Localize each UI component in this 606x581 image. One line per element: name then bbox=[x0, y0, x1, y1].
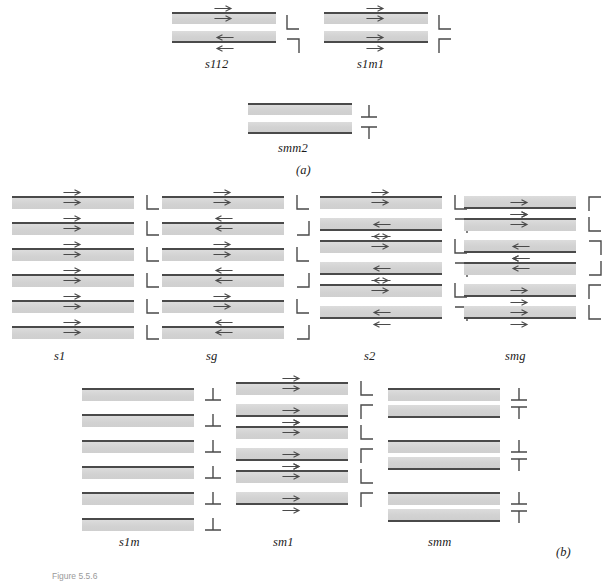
symmetry-symbol-corner-bl bbox=[294, 298, 314, 318]
symmetry-symbol-corner-bl bbox=[586, 304, 606, 324]
translation-arrow-left bbox=[213, 45, 235, 52]
symmetry-symbol-perp-down bbox=[204, 438, 224, 458]
symmetry-symbol-corner-bl bbox=[294, 246, 314, 266]
translation-arrow-right bbox=[509, 221, 531, 228]
symmetry-band bbox=[388, 440, 500, 453]
translation-arrow-left bbox=[370, 321, 392, 328]
translation-arrow-right bbox=[213, 5, 235, 12]
translation-arrow-right bbox=[281, 429, 303, 436]
translation-arrow-left bbox=[212, 225, 234, 232]
group-caption-smg: smg bbox=[505, 349, 526, 364]
translation-arrow-right bbox=[509, 299, 531, 306]
translation-arrow-right bbox=[370, 189, 392, 196]
group-caption-s1m: s1m bbox=[119, 535, 140, 550]
translation-arrow-left bbox=[509, 265, 531, 272]
group-caption-s112: s112 bbox=[205, 57, 229, 72]
symmetry-symbol-corner-bl bbox=[358, 424, 378, 444]
group-diagram-s2 bbox=[320, 196, 472, 328]
figure-canvas: s112 s1m1 smm2 (a) s1 sg s2 smg s1m sm1 … bbox=[0, 0, 606, 581]
translation-arrow-right bbox=[281, 451, 303, 458]
translation-arrow-right bbox=[365, 45, 387, 52]
translation-arrow-left bbox=[212, 329, 234, 336]
translation-arrow-right bbox=[365, 5, 387, 12]
symmetry-band bbox=[82, 518, 194, 531]
symmetry-symbol-perp-up bbox=[510, 455, 530, 475]
group-diagram-sg bbox=[162, 196, 314, 352]
translation-arrow-right bbox=[212, 251, 234, 258]
symmetry-symbol-corner-bl bbox=[358, 468, 378, 488]
symmetry-symbol-perp-down bbox=[204, 386, 224, 406]
symmetry-band bbox=[388, 492, 500, 505]
symmetry-band bbox=[388, 457, 500, 470]
translation-arrow-right bbox=[509, 309, 531, 316]
translation-arrow-right bbox=[509, 211, 531, 218]
symmetry-symbol-perp-down bbox=[360, 103, 380, 123]
translation-arrow-right bbox=[281, 385, 303, 392]
group-caption-smm: smm bbox=[428, 535, 452, 550]
translation-arrow-right bbox=[509, 199, 531, 206]
symmetry-band bbox=[388, 388, 500, 401]
part-label-a: (a) bbox=[296, 163, 311, 178]
translation-arrow-left bbox=[370, 221, 392, 228]
symmetry-symbol-corner-bl bbox=[436, 14, 456, 34]
group-caption-s2: s2 bbox=[364, 349, 376, 364]
translation-arrow-right bbox=[370, 277, 392, 284]
translation-arrow-right bbox=[212, 303, 234, 310]
symmetry-symbol-corner-tr bbox=[586, 238, 606, 258]
translation-arrow-right bbox=[62, 267, 84, 274]
translation-arrow-left bbox=[212, 277, 234, 284]
symmetry-symbol-perp-up bbox=[360, 123, 380, 143]
translation-arrow-right bbox=[281, 495, 303, 502]
translation-arrow-right bbox=[212, 199, 234, 206]
figure-caption: Figure 5.5.6 bbox=[52, 571, 97, 581]
translation-arrow-right bbox=[509, 287, 531, 294]
symmetry-symbol-corner-br bbox=[294, 324, 314, 344]
symmetry-symbol-perp-up bbox=[510, 403, 530, 423]
symmetry-symbol-corner-tl bbox=[586, 194, 606, 214]
symmetry-symbol-perp-down bbox=[204, 516, 224, 536]
symmetry-band bbox=[82, 492, 194, 505]
symmetry-symbol-corner-bl bbox=[144, 246, 164, 266]
symmetry-symbol-perp-up bbox=[510, 507, 530, 527]
symmetry-symbol-perp-down bbox=[204, 412, 224, 432]
symmetry-symbol-corner-br bbox=[586, 260, 606, 280]
translation-arrow-right bbox=[365, 34, 387, 41]
symmetry-band bbox=[388, 405, 500, 418]
translation-arrow-right bbox=[509, 321, 531, 328]
symmetry-band bbox=[248, 103, 352, 115]
part-label-b: (b) bbox=[556, 545, 571, 560]
symmetry-band bbox=[82, 388, 194, 401]
symmetry-symbol-corner-bl bbox=[144, 194, 164, 214]
symmetry-band bbox=[82, 414, 194, 427]
translation-arrow-right bbox=[365, 15, 387, 22]
symmetry-symbol-corner-bl bbox=[144, 272, 164, 292]
group-caption-sm1: sm1 bbox=[273, 535, 294, 550]
translation-arrow-left bbox=[213, 34, 235, 41]
symmetry-band bbox=[82, 440, 194, 453]
group-diagram-s112 bbox=[172, 12, 304, 50]
translation-arrow-right bbox=[62, 225, 84, 232]
translation-arrow-right bbox=[62, 251, 84, 258]
translation-arrow-right bbox=[62, 303, 84, 310]
translation-arrow-left bbox=[370, 309, 392, 316]
translation-arrow-right bbox=[212, 241, 234, 248]
translation-arrow-left bbox=[370, 265, 392, 272]
group-caption-smm2: smm2 bbox=[278, 141, 308, 156]
translation-arrow-right bbox=[213, 15, 235, 22]
symmetry-symbol-corner-bl bbox=[284, 14, 304, 34]
translation-arrow-left bbox=[509, 255, 531, 262]
group-caption-s1: s1 bbox=[54, 349, 66, 364]
translation-arrow-right bbox=[281, 507, 303, 514]
translation-arrow-right bbox=[281, 375, 303, 382]
group-caption-s1m1: s1m1 bbox=[357, 57, 384, 72]
translation-arrow-right bbox=[62, 277, 84, 284]
translation-arrow-right bbox=[281, 463, 303, 470]
translation-arrow-right bbox=[62, 293, 84, 300]
group-diagram-sm1 bbox=[236, 382, 378, 514]
symmetry-symbol-corner-bl bbox=[294, 194, 314, 214]
group-diagram-s1m1 bbox=[324, 12, 456, 50]
translation-arrow-left bbox=[509, 243, 531, 250]
symmetry-symbol-corner-br bbox=[294, 220, 314, 240]
symmetry-symbol-corner-br bbox=[294, 272, 314, 292]
symmetry-band bbox=[248, 122, 352, 134]
